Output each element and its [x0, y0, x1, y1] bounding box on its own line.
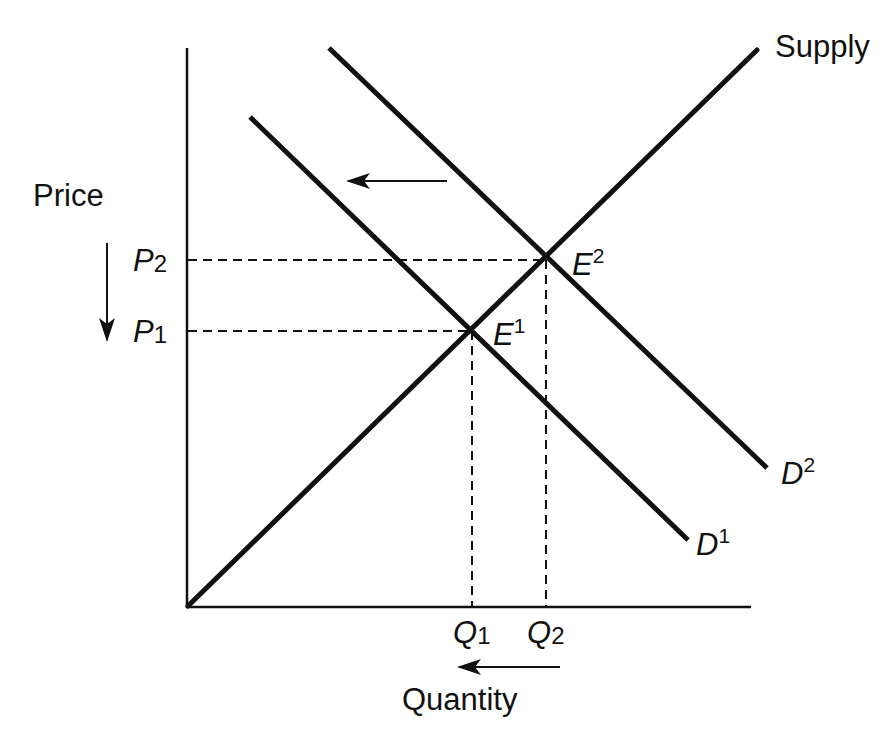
q1-label-base: Q [453, 615, 477, 650]
d2-label-base: D [781, 456, 803, 491]
e1-label-base: E [493, 317, 514, 352]
q2-label-sub: 2 [551, 622, 564, 649]
p1-label-base: P [133, 314, 154, 349]
q2-label-base: Q [527, 615, 551, 650]
p1-label-sub: 1 [154, 321, 167, 348]
q1-label: Q1 [453, 615, 490, 650]
price-axis-label: Price [33, 178, 104, 213]
p2-label: P2 [133, 243, 167, 278]
p2-label-sub: 2 [154, 250, 167, 277]
e1-label-sup: 1 [514, 314, 526, 337]
d2-label: D2 [781, 453, 815, 491]
d1-label-sup: 1 [718, 524, 730, 547]
supply-demand-diagram: Supply Price Quantity D2 D1 E2 E1 P2 P1 … [0, 0, 891, 750]
q2-label: Q2 [527, 615, 564, 650]
q1-label-sub: 1 [477, 622, 490, 649]
quantity-axis-label: Quantity [402, 682, 518, 717]
supply-label: Supply [775, 29, 870, 64]
d1-label-base: D [696, 527, 718, 562]
e2-label-sup: 2 [593, 244, 605, 267]
p1-label: P1 [133, 314, 167, 349]
e2-label-base: E [572, 247, 593, 282]
e1-label: E1 [493, 314, 525, 352]
p2-label-base: P [133, 243, 154, 278]
d2-label-sup: 2 [803, 453, 815, 476]
e2-label: E2 [572, 244, 604, 282]
d1-label: D1 [696, 524, 730, 562]
